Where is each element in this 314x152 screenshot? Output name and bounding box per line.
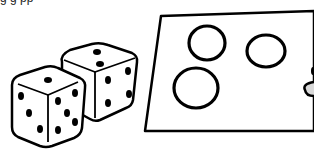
paper-card xyxy=(145,11,314,131)
illustration xyxy=(0,0,314,152)
front-die xyxy=(12,66,85,147)
